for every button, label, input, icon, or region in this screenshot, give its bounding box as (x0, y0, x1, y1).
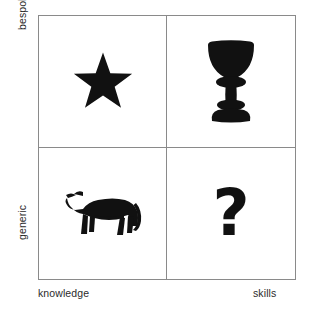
cow-icon (61, 184, 145, 242)
quadrant-bottom-right: ? (167, 148, 295, 280)
matrix-grid: ? (38, 15, 296, 280)
quadrant-matrix-figure: bespoke generic knowledge skills (0, 0, 313, 314)
x-axis-label-knowledge: knowledge (38, 287, 89, 299)
x-axis-label-skills: skills (253, 287, 276, 299)
quadrant-top-right (167, 16, 295, 148)
chalice-icon (201, 37, 261, 125)
quadrant-bottom-left (39, 148, 167, 280)
star-icon (72, 51, 134, 111)
question-mark-icon: ? (212, 181, 249, 245)
y-axis-label-generic: generic (16, 205, 28, 240)
quadrant-top-left (39, 16, 167, 148)
y-axis-label-bespoke: bespoke (16, 0, 28, 30)
